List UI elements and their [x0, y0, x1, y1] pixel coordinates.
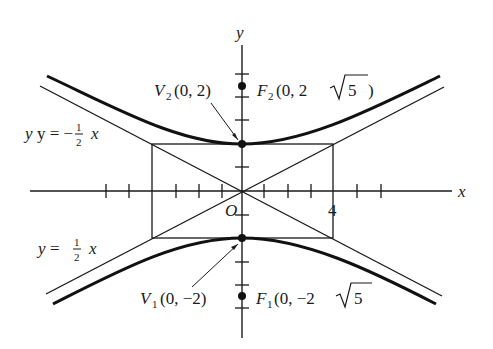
svg-text:(0, −2: (0, −2	[274, 289, 315, 308]
asymptote-positive-label: y = 1 2 x	[36, 236, 97, 263]
svg-text:x: x	[88, 239, 97, 258]
svg-text:2: 2	[166, 90, 172, 102]
svg-text:1: 1	[76, 121, 82, 133]
svg-text:(0, 2): (0, 2)	[174, 81, 211, 100]
svg-text:2: 2	[76, 136, 82, 148]
svg-text:): )	[368, 81, 374, 100]
focus-f1-dot	[238, 292, 246, 300]
svg-text:y: y	[36, 239, 46, 258]
focus-f1-label: F 1 (0, −2 5	[255, 283, 372, 310]
svg-text:y = −: y = −	[37, 124, 73, 143]
origin-label: O	[225, 201, 237, 220]
svg-text:(0, 2: (0, 2	[276, 81, 307, 100]
vertex-v1-dot	[238, 234, 246, 242]
svg-text:1: 1	[267, 298, 273, 310]
svg-text:2: 2	[74, 251, 80, 263]
v1-pointer-line	[192, 244, 238, 287]
y-axis-label: y	[234, 23, 244, 42]
vertex-v2-dot	[238, 140, 246, 148]
focus-f2-dot	[238, 82, 246, 90]
svg-text:x: x	[90, 124, 99, 143]
svg-text:F: F	[255, 289, 267, 308]
svg-text:=: =	[50, 239, 60, 258]
focus-f2-label: F 2 (0, 2 5 )	[256, 75, 374, 102]
hyperbola-diagram: y x O 4 V 2 (0, 2) F 2 (0, 2 5 ) V 1 (0,…	[0, 0, 493, 349]
svg-text:5: 5	[354, 289, 363, 308]
asymptote-negative-label: y y = − 1 2 x	[23, 121, 99, 148]
svg-text:5: 5	[348, 81, 357, 100]
x-axis-label: x	[457, 182, 466, 201]
v2-arrowhead-icon	[232, 133, 238, 140]
x-tick-label-4: 4	[328, 201, 337, 220]
svg-text:y: y	[23, 124, 33, 143]
svg-text:(0, −2): (0, −2)	[160, 289, 206, 308]
svg-text:2: 2	[268, 90, 274, 102]
vertex-v1-label: V 1 (0, −2)	[140, 289, 206, 310]
svg-text:F: F	[256, 81, 268, 100]
svg-text:1: 1	[152, 298, 158, 310]
svg-text:1: 1	[74, 236, 80, 248]
vertex-v2-label: V 2 (0, 2)	[154, 81, 211, 102]
